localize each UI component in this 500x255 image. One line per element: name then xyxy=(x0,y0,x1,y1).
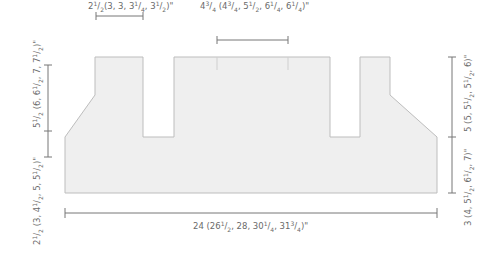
schematic-diagram: 21/2(3, 3, 31/4, 31/2)" 43/4 (43/4, 51/2… xyxy=(0,0,500,255)
notch-width-label: 21/2(3, 3, 31/4, 31/2)" xyxy=(88,0,174,13)
left-lower-height-label: 21/2 (3, 41/2, 5, 51/2)" xyxy=(31,157,44,245)
total-width-label: 24 (261/2, 28, 301/4, 313/4)" xyxy=(193,220,308,233)
center-width-dimension-line xyxy=(217,36,288,44)
right-upper-height-label: 5 (5, 51/2, 51/2, 6)" xyxy=(462,54,475,132)
notch-width-dimension-line xyxy=(96,12,143,20)
garment-piece-shape xyxy=(65,57,437,193)
center-width-label: 43/4 (43/4, 51/2, 61/4, 61/4)" xyxy=(200,0,309,13)
left-upper-height-label: 51/2 (6, 61/2, 7, 71/2)" xyxy=(31,40,44,128)
right-height-dimension-line xyxy=(448,57,456,193)
total-width-dimension-line xyxy=(65,208,437,218)
left-height-dimension-line xyxy=(44,65,52,157)
right-lower-height-label: 3 (4, 51/2, 61/2, 7)" xyxy=(462,148,475,226)
